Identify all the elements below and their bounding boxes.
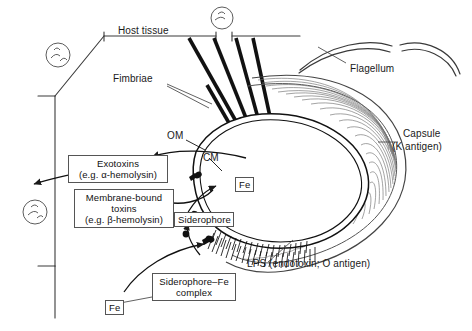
fe-source-label: Fe	[109, 302, 120, 313]
label-capsule-line1: Capsule	[403, 128, 440, 139]
exotoxins-line2: (e.g. α-hemolysin)	[73, 169, 163, 180]
label-om: OM	[167, 130, 183, 141]
bacterium-outer-membrane	[193, 114, 368, 248]
siderophore-secretion-arrow	[188, 223, 201, 255]
nucleus-lower-left	[23, 200, 47, 224]
siderophore-receptors	[183, 231, 211, 245]
nucleus-upper-left	[46, 43, 70, 67]
nucleus-top-right	[211, 7, 233, 29]
box-fe-uptake: Fe	[235, 177, 254, 192]
box-membrane-bound-toxins: Membrane-bound toxins (e.g. β-hemolysin)	[74, 189, 174, 228]
label-cm: CM	[203, 152, 219, 163]
box-siderophore-fe-complex: Siderophore–Fe complex	[152, 273, 236, 301]
label-flagellum: Flagellum	[350, 63, 394, 74]
membrane-toxins-line3: (e.g. β-hemolysin)	[79, 214, 169, 225]
membrane-toxins-line1: Membrane-bound	[79, 192, 169, 203]
sid-fe-line2: complex	[157, 287, 231, 298]
diagram-canvas: Host tissue Fimbriae OM CM Flagellum Cap…	[0, 0, 472, 331]
label-capsule-line2: (K antigen)	[392, 141, 442, 152]
label-lps: LPS (endotoxin; O antigen)	[247, 258, 370, 269]
box-exotoxins: Exotoxins (e.g. α-hemolysin)	[68, 155, 168, 183]
label-fimbriae: Fimbriae	[113, 73, 153, 84]
siderophore-label: Siderophore	[178, 214, 230, 225]
label-host-tissue: Host tissue	[118, 25, 169, 36]
box-siderophore: Siderophore	[174, 212, 234, 227]
fe-uptake-label: Fe	[239, 179, 250, 190]
membrane-toxins-line2: toxins	[79, 203, 169, 214]
sid-fe-line1: Siderophore–Fe	[157, 276, 231, 287]
box-fe-source: Fe	[105, 300, 124, 315]
exotoxins-line1: Exotoxins	[73, 158, 163, 169]
